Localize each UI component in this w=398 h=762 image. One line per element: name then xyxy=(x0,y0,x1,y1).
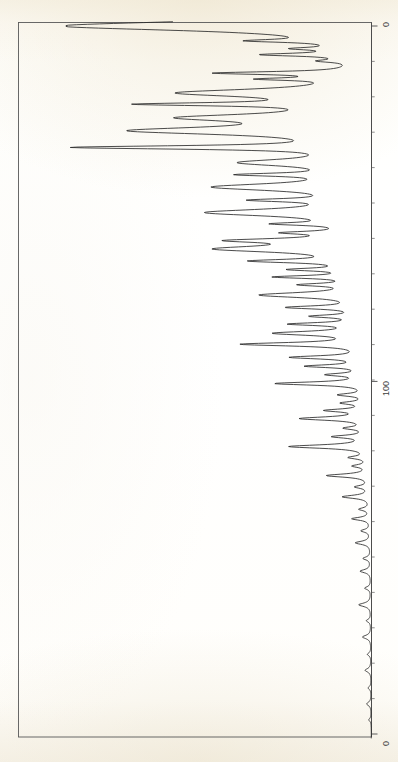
axis-tick-label-top: 0 xyxy=(381,22,391,27)
scan-color-fringe xyxy=(72,25,363,248)
axis-ticks xyxy=(372,26,378,734)
axis-tick-label-mid: 100 xyxy=(381,381,391,396)
scanned-page: 0 100 0 xyxy=(0,0,398,762)
spectrum-plot xyxy=(0,0,398,762)
spectrum-svg xyxy=(0,0,398,762)
axis-tick-label-bottom: 0 xyxy=(381,741,391,746)
